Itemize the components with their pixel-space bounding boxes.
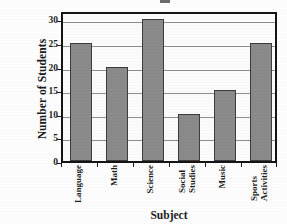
x-axis-category-label: SportsActivities — [241, 163, 277, 208]
x-axis-category-label-line: Sports — [249, 176, 259, 201]
x-axis-category-label-line: Language — [73, 165, 83, 203]
bar[interactable] — [142, 19, 164, 161]
y-axis-tick-labels: 051015202530 — [40, 12, 58, 163]
x-axis-category-label-line: Studies — [187, 165, 197, 193]
x-axis-category-label: Science — [133, 163, 169, 208]
gridline — [63, 22, 275, 23]
x-axis-category-label-line: Music — [217, 165, 227, 189]
gridline — [63, 117, 275, 118]
x-axis-category-label: Music — [205, 163, 241, 208]
plot-area — [61, 12, 277, 163]
cropped-title-fragment — [160, 0, 170, 3]
x-axis-category-labels: LanguageMathScienceSocialStudiesMusicSpo… — [61, 163, 277, 208]
y-axis-tick-label: 15 — [40, 87, 58, 97]
y-axis-tick-label: 30 — [40, 17, 58, 27]
x-axis-title: Subject — [61, 209, 277, 221]
bar[interactable] — [214, 90, 236, 161]
bar[interactable] — [106, 67, 128, 161]
x-axis-tick-mark — [61, 163, 62, 167]
y-axis-tick-mark — [57, 92, 61, 93]
x-axis-category-label-text: Science — [146, 165, 156, 194]
y-axis-tick-label: 5 — [40, 135, 58, 145]
x-axis-tick-mark — [276, 163, 277, 167]
x-axis-tick-mark — [169, 163, 170, 167]
x-axis-category-label-text: SocialStudies — [178, 165, 197, 193]
x-axis-tick-mark — [241, 163, 242, 167]
gridline — [63, 140, 275, 141]
bar-chart-figure: Number of Students 051015202530 Language… — [0, 0, 287, 224]
x-axis-category-label-line: Activities — [259, 165, 269, 201]
x-axis-tick-mark — [133, 163, 134, 167]
y-axis-tick-mark — [57, 116, 61, 117]
x-axis-category-label-text: Math — [110, 165, 120, 186]
x-axis-category-label-text: Language — [74, 165, 84, 203]
x-axis-category-label-text: SportsActivities — [250, 165, 269, 201]
y-axis-tick-mark — [57, 139, 61, 140]
y-axis-tick-mark — [57, 45, 61, 46]
gridline — [63, 46, 275, 47]
x-axis-tick-mark — [97, 163, 98, 167]
y-axis-tick-label: 25 — [40, 40, 58, 50]
y-axis-tick-mark — [57, 21, 61, 22]
bar[interactable] — [178, 114, 200, 161]
gridline — [63, 93, 275, 94]
y-axis-tick-mark — [57, 69, 61, 70]
x-axis-category-label-text: Music — [218, 165, 228, 189]
y-axis-tick-label: 20 — [40, 64, 58, 74]
bar[interactable] — [70, 43, 92, 161]
y-axis-tick-label: 10 — [40, 111, 58, 121]
x-axis-tick-mark — [205, 163, 206, 167]
x-axis-category-label: Language — [61, 163, 97, 208]
x-axis-category-label: Math — [97, 163, 133, 208]
y-axis-tick-label: 0 — [40, 158, 58, 168]
x-axis-category-label: SocialStudies — [169, 163, 205, 208]
gridline — [63, 70, 275, 71]
x-axis-category-label-line: Math — [109, 165, 119, 186]
x-axis-category-label-line: Science — [145, 165, 155, 194]
x-axis-category-label-line: Social — [177, 170, 187, 193]
bar[interactable] — [250, 43, 272, 161]
plot-inner — [63, 14, 275, 161]
